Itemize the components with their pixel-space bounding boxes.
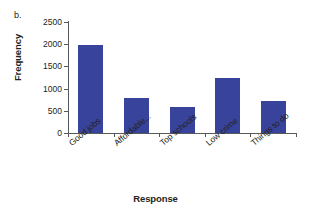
y-axis-tick: [64, 66, 68, 67]
x-axis-tick: [159, 133, 160, 137]
y-axis-tick-label: 500: [48, 106, 62, 116]
y-axis-tick-label: 0: [57, 128, 62, 138]
y-axis-title: Frequency: [12, 28, 23, 88]
y-axis-tick: [64, 89, 68, 90]
x-axis-tick: [68, 133, 69, 137]
y-axis-tick: [64, 111, 68, 112]
x-axis-tick: [205, 133, 206, 137]
y-axis-tick: [64, 44, 68, 45]
x-axis-tick: [296, 133, 297, 137]
y-axis-tick-label: 2000: [43, 39, 62, 49]
y-axis-tick-label: 1000: [43, 84, 62, 94]
x-axis-title: Response: [0, 193, 311, 204]
y-axis-tick: [64, 22, 68, 23]
y-axis-tick-label: 2500: [43, 17, 62, 27]
panel-letter: b.: [14, 10, 22, 20]
plot-area: 05001000150020002500Good jobsAffordable.…: [68, 22, 296, 133]
bar-chart-figure: b. Frequency 05001000150020002500Good jo…: [0, 0, 311, 215]
y-axis-tick-label: 1500: [43, 61, 62, 71]
